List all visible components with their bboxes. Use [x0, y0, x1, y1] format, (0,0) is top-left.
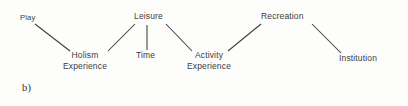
node-activity-experience-line-1: Activity — [187, 50, 231, 61]
node-play: Play — [20, 12, 35, 23]
node-play-line-1: Play — [20, 12, 35, 23]
node-activity-experience-line-2: Experience — [187, 61, 231, 72]
edge-leisure-holism — [108, 24, 135, 51]
node-recreation-line-1: Recreation — [261, 11, 304, 22]
node-leisure: Leisure — [134, 11, 163, 22]
node-institution-line-1: Institution — [339, 53, 377, 64]
node-recreation: Recreation — [261, 11, 304, 22]
figure-caption-label: b) — [22, 82, 31, 93]
edge-leisure-activity — [166, 24, 192, 51]
edge-recreation-institution — [312, 24, 341, 53]
edge-play-holism — [35, 24, 70, 51]
node-institution: Institution — [339, 53, 377, 64]
node-activity-experience: ActivityExperience — [187, 50, 231, 72]
node-holism-experience: HolismExperience — [63, 50, 107, 72]
node-holism-experience-line-2: Experience — [63, 61, 107, 72]
node-holism-experience-line-1: Holism — [63, 50, 107, 61]
figure-panel: PlayLeisureRecreationHolismExperienceTim… — [0, 0, 408, 106]
node-time: Time — [136, 50, 155, 61]
node-leisure-line-1: Leisure — [134, 11, 163, 22]
node-time-line-1: Time — [136, 50, 155, 61]
edge-recreation-activity — [228, 24, 261, 51]
